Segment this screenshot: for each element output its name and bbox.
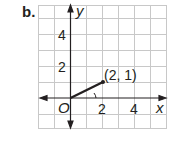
x-tick-2: 2 [98, 101, 106, 117]
coordinate-plane [0, 0, 175, 143]
y-tick-4: 4 [58, 27, 66, 43]
point-label: (2, 1) [104, 67, 137, 83]
y-axis-up-arrow-icon [68, 5, 73, 12]
y-tick-2: 2 [58, 59, 66, 75]
angle-arc [94, 93, 96, 98]
y-axis-down-arrow-icon [68, 121, 73, 128]
origin-label: O [58, 99, 70, 116]
x-tick-4: 4 [130, 101, 138, 117]
x-axis-label: x [156, 99, 164, 116]
x-axis-left-arrow-icon [40, 96, 47, 101]
y-axis-label: y [76, 2, 84, 19]
